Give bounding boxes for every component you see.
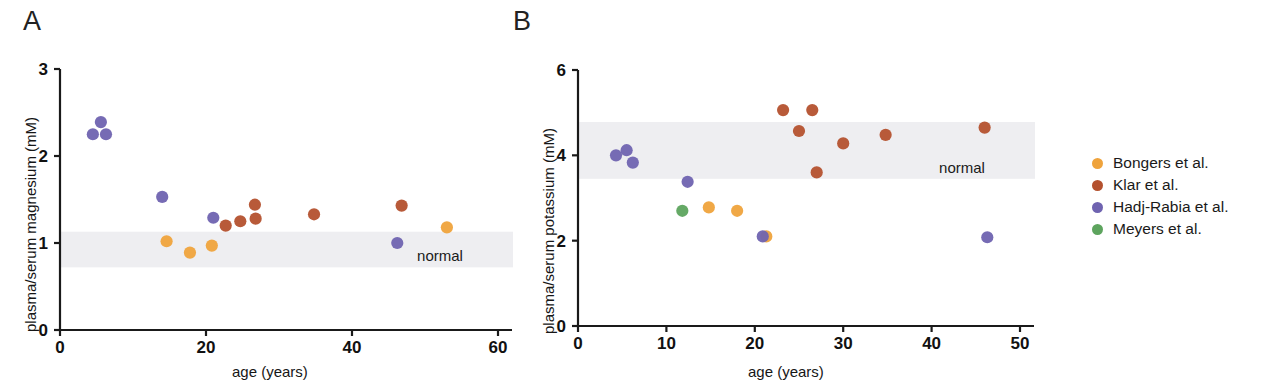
y-axis-tick-label: 3 — [39, 60, 48, 79]
panel-a-y-axis-title: plasma/serum magnesium (mM) — [22, 117, 39, 332]
data-point — [95, 116, 107, 128]
y-axis-tick-label: 0 — [557, 317, 566, 336]
data-point — [676, 205, 688, 217]
data-point — [811, 166, 823, 178]
data-point — [441, 221, 453, 233]
normal-range-label: normal — [417, 247, 463, 264]
data-point — [391, 237, 403, 249]
panel-a-plot: normal02040600123 — [0, 0, 520, 391]
legend-item-label: Bongers et al. — [1113, 155, 1209, 171]
data-point — [184, 246, 196, 258]
y-axis-tick-label: 2 — [39, 147, 48, 166]
data-point — [206, 240, 218, 252]
data-point — [621, 144, 633, 156]
legend: Bongers et al. Klar et al. Hadj-Rabia et… — [1092, 152, 1276, 240]
legend-swatch-icon — [1092, 158, 1103, 169]
panel-b-y-axis-title: plasma/serum potassium (mM) — [540, 128, 557, 334]
y-axis-tick-label: 4 — [557, 146, 567, 165]
data-point — [156, 191, 168, 203]
legend-swatch-icon — [1092, 180, 1103, 191]
data-point — [837, 137, 849, 149]
data-point — [880, 129, 892, 141]
data-point — [87, 128, 99, 140]
data-point — [610, 149, 622, 161]
data-point — [249, 199, 261, 211]
x-axis-tick-label: 0 — [55, 338, 64, 357]
data-point — [703, 201, 715, 213]
data-point — [806, 104, 818, 116]
legend-item-label: Meyers et al. — [1113, 221, 1202, 237]
legend-item: Meyers et al. — [1092, 218, 1276, 240]
data-point — [308, 208, 320, 220]
data-point — [220, 220, 232, 232]
data-point — [682, 176, 694, 188]
x-axis-tick-label: 30 — [834, 334, 853, 353]
panel-a-x-axis-title: age (years) — [232, 363, 308, 380]
legend-item: Klar et al. — [1092, 174, 1276, 196]
x-axis-tick-label: 40 — [922, 334, 941, 353]
x-axis-tick-label: 60 — [489, 338, 508, 357]
data-point — [396, 199, 408, 211]
data-point — [100, 128, 112, 140]
y-axis-tick-label: 6 — [557, 61, 566, 80]
x-axis-tick-label: 20 — [745, 334, 764, 353]
data-point — [793, 125, 805, 137]
data-point — [250, 213, 262, 225]
panel-b-plot: normal010203040500246 — [520, 0, 1060, 391]
data-point — [627, 156, 639, 168]
data-point — [234, 215, 246, 227]
x-axis-tick-label: 20 — [197, 338, 216, 357]
data-point — [981, 231, 993, 243]
x-axis-tick-label: 50 — [1011, 334, 1030, 353]
legend-item-label: Hadj-Rabia et al. — [1113, 199, 1228, 215]
y-axis-tick-label: 1 — [39, 234, 48, 253]
x-axis-tick-label: 40 — [343, 338, 362, 357]
normal-range-label: normal — [939, 159, 985, 176]
panel-a-canvas: normal02040600123 — [0, 0, 520, 391]
legend-item-label: Klar et al. — [1113, 177, 1178, 193]
legend-swatch-icon — [1092, 202, 1103, 213]
data-point — [160, 235, 172, 247]
y-axis-tick-label: 2 — [557, 232, 566, 251]
data-point — [207, 212, 219, 224]
y-axis-tick-label: 0 — [39, 321, 48, 340]
panel-b-canvas: normal010203040500246 — [520, 0, 1060, 391]
legend-item: Hadj-Rabia et al. — [1092, 196, 1276, 218]
data-point — [757, 230, 769, 242]
data-point — [777, 104, 789, 116]
x-axis-tick-label: 10 — [657, 334, 676, 353]
legend-swatch-icon — [1092, 224, 1103, 235]
data-point — [731, 205, 743, 217]
x-axis-tick-label: 0 — [573, 334, 582, 353]
legend-item: Bongers et al. — [1092, 152, 1276, 174]
panel-b-x-axis-title: age (years) — [748, 363, 824, 380]
data-point — [979, 122, 991, 134]
figure-scatter-panels: A B normal02040600123 plasma/serum magne… — [0, 0, 1276, 391]
